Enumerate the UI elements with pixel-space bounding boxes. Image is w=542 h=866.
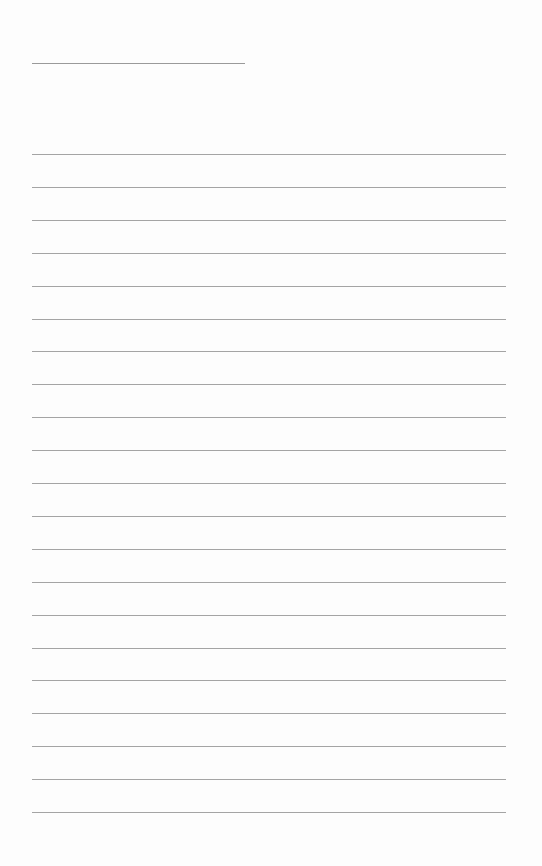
- ruled-line: [32, 384, 506, 385]
- ruled-line: [32, 746, 506, 747]
- ruled-line: [32, 648, 506, 649]
- ruled-line: [32, 779, 506, 780]
- ruled-line: [32, 351, 506, 352]
- ruled-line: [32, 417, 506, 418]
- ruled-line: [32, 154, 506, 155]
- ruled-line: [32, 253, 506, 254]
- ruled-line: [32, 680, 506, 681]
- ruled-page: [0, 0, 542, 866]
- ruled-line: [32, 582, 506, 583]
- ruled-line: [32, 286, 506, 287]
- ruled-line: [32, 450, 506, 451]
- ruled-line: [32, 516, 506, 517]
- ruled-line: [32, 549, 506, 550]
- ruled-line: [32, 220, 506, 221]
- ruled-line: [32, 713, 506, 714]
- ruled-line: [32, 319, 506, 320]
- title-line: [32, 63, 245, 64]
- ruled-line: [32, 187, 506, 188]
- ruled-line: [32, 615, 506, 616]
- ruled-line: [32, 483, 506, 484]
- ruled-line: [32, 812, 506, 813]
